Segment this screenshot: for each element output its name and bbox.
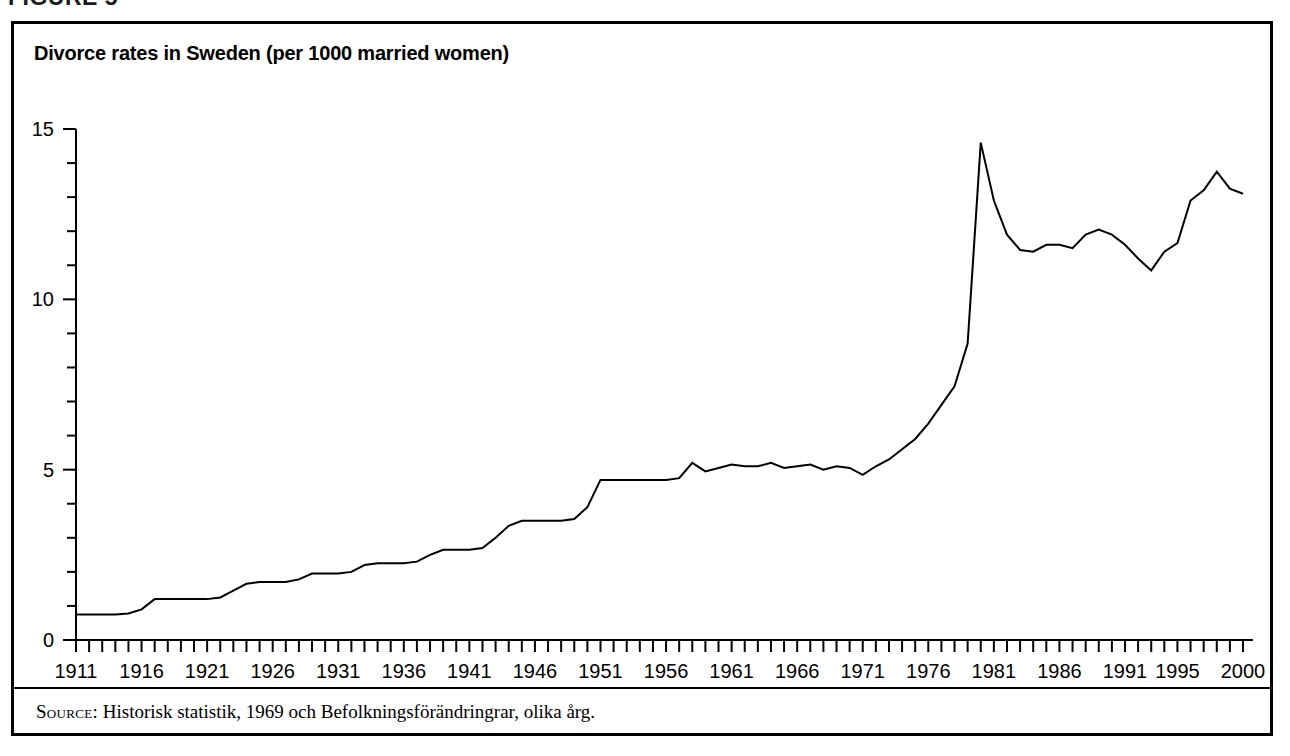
x-axis-tick-label: 1976 [906, 660, 951, 682]
x-axis-tick-label: 2000 [1221, 660, 1266, 682]
x-axis-tick-label: 1911 [54, 660, 97, 682]
x-axis-tick-label: 1956 [644, 660, 689, 682]
y-axis-tick-label: 5 [43, 459, 54, 481]
x-axis-tick-label: 1916 [119, 660, 164, 682]
x-axis-tick-label: 1966 [775, 660, 820, 682]
x-axis-tick-label: 1946 [513, 660, 558, 682]
source-label: Source: [36, 701, 98, 722]
x-axis-tick-label: 1961 [709, 660, 754, 682]
x-axis-tick-label: 1931 [316, 660, 361, 682]
y-axis-tick-label: 0 [43, 629, 54, 651]
x-axis-tick-label: 1926 [250, 660, 295, 682]
x-axis-tick-label: 1971 [840, 660, 885, 682]
x-axis-tick-label: 1941 [447, 660, 492, 682]
source-text: Historisk statistik, 1969 och Befolkning… [103, 701, 595, 722]
source-divider [14, 687, 1270, 689]
data-series-line [76, 143, 1243, 615]
figure-page: FIGURE 5 Divorce rates in Sweden (per 10… [0, 0, 1290, 756]
y-axis-tick-label: 15 [32, 118, 54, 140]
y-axis-tick-label: 10 [32, 288, 54, 310]
x-axis-tick-label: 1981 [972, 660, 1017, 682]
divorce-rate-line-chart: 0510151911191619211926193119361941194619… [14, 24, 1270, 733]
figure-frame: Divorce rates in Sweden (per 1000 marrie… [11, 21, 1273, 736]
x-axis-tick-label: 1936 [382, 660, 427, 682]
x-axis-tick-label: 1921 [185, 660, 230, 682]
figure-number-caption: FIGURE 5 [8, 0, 118, 6]
x-axis-tick-label: 1995 [1155, 660, 1200, 682]
x-axis-tick-label: 1951 [578, 660, 623, 682]
x-axis-tick-label: 1991 [1103, 660, 1148, 682]
x-axis-tick-label: 1986 [1037, 660, 1082, 682]
source-note: Source: Historisk statistik, 1969 och Be… [36, 701, 595, 723]
